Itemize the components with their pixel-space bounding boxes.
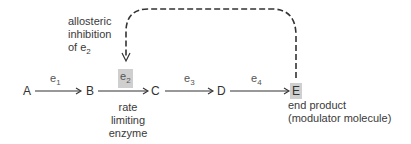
- end-product-line-1: end product: [288, 99, 391, 112]
- node-d: D: [217, 84, 226, 98]
- feedback-label-line-1: allosteric: [68, 15, 111, 28]
- node-e: E: [290, 83, 302, 99]
- rate-limiting-line-1: rate: [98, 101, 158, 114]
- feedback-label-line-2: inhibition: [68, 28, 111, 41]
- end-product-line-2: (modulator molecule): [288, 112, 391, 125]
- node-c: C: [151, 84, 160, 98]
- end-product-label: end product (modulator molecule): [288, 99, 391, 125]
- enzyme-e4: e4: [251, 72, 262, 89]
- feedback-label-line-3: of e2: [68, 41, 111, 58]
- enzyme-e3: e3: [184, 72, 195, 89]
- node-a: A: [23, 84, 31, 98]
- rate-limiting-label: rate limiting enzyme: [98, 101, 158, 140]
- node-b: B: [86, 84, 94, 98]
- enzyme-e1: e1: [50, 72, 61, 89]
- feedback-dashed-arrow: [126, 9, 296, 78]
- rate-limiting-line-2: limiting: [98, 114, 158, 127]
- feedback-label: allosteric inhibition of e2: [68, 15, 111, 58]
- rate-limiting-line-3: enzyme: [98, 127, 158, 140]
- enzyme-e2: e2: [118, 69, 133, 88]
